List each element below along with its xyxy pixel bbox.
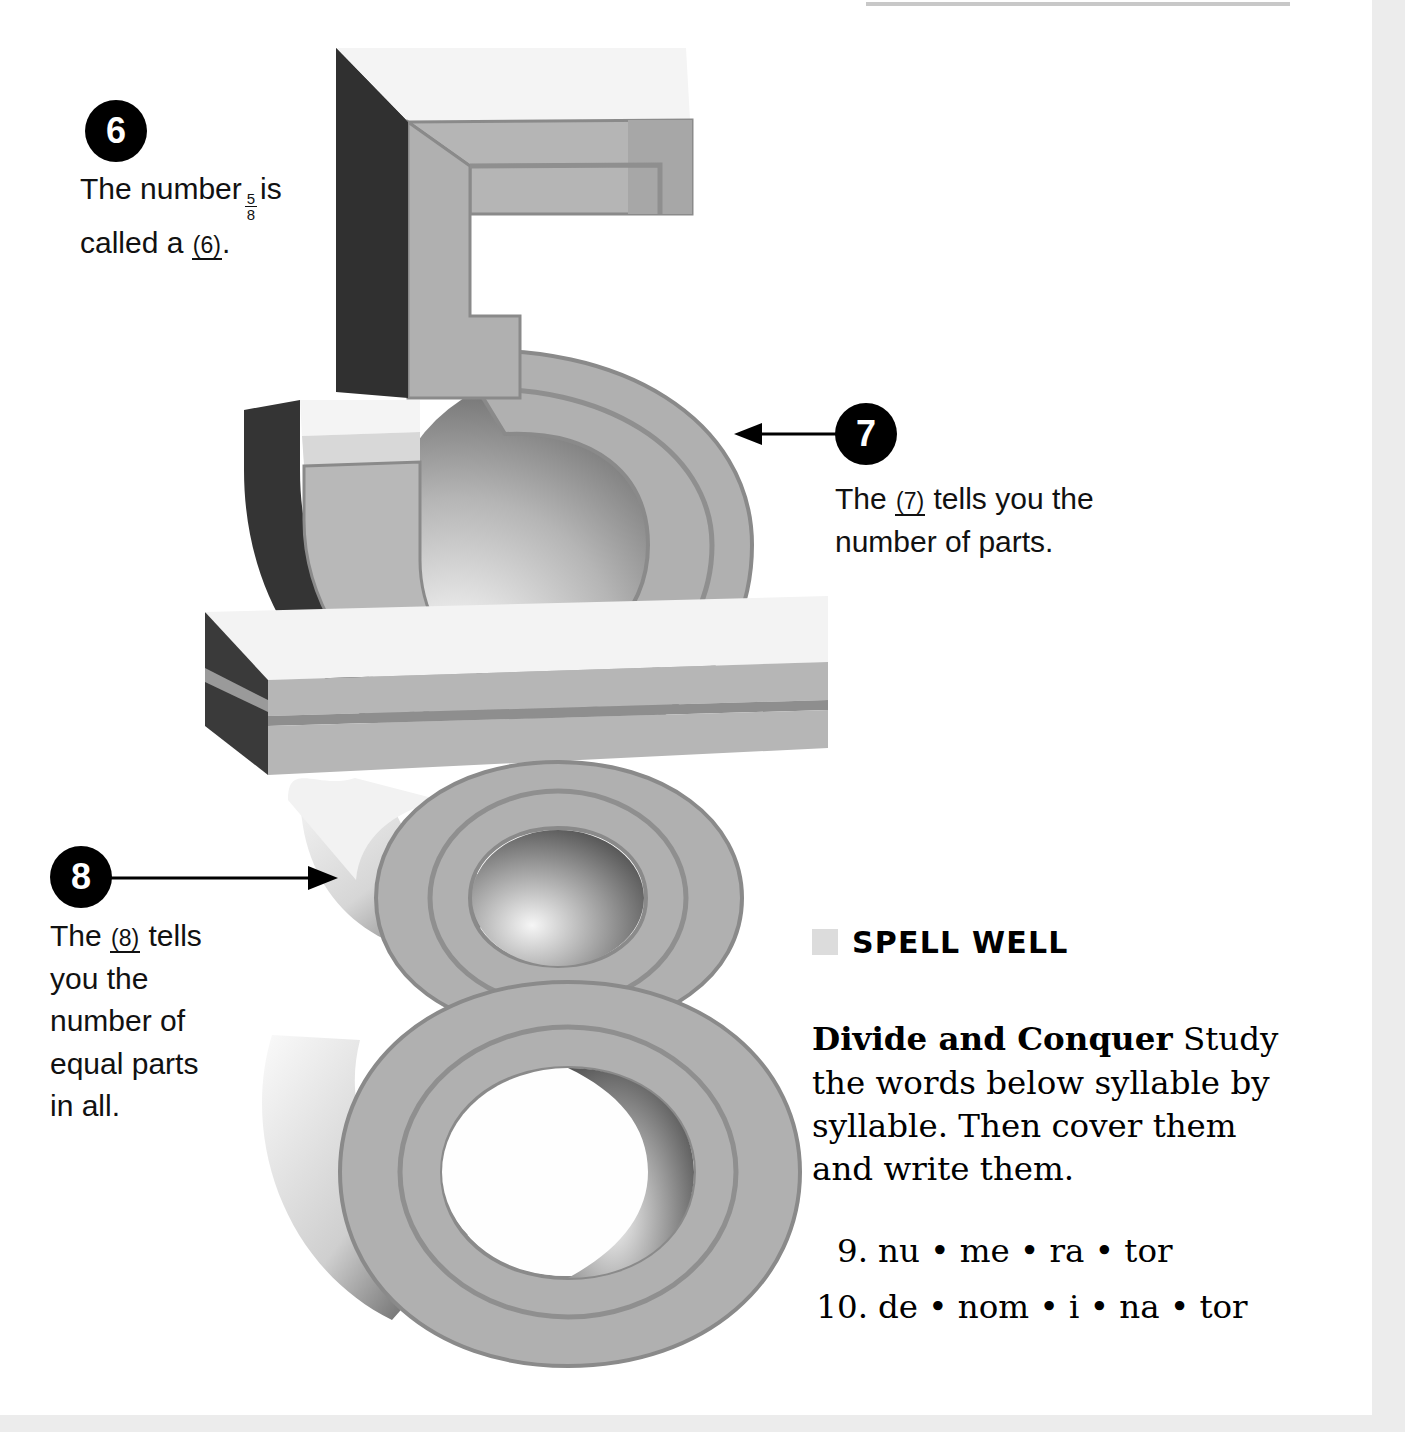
spell-well-word-list: 9. nu • me • ra • tor 10. de • nom • i •… <box>812 1224 1282 1336</box>
inline-fraction-five-eighths: 5 8 <box>245 191 257 223</box>
spell-well-body: Divide and Conquer Study the words below… <box>812 1017 1282 1191</box>
callout-6-period: . <box>222 226 230 259</box>
callout-8-blank: (8) <box>110 925 140 953</box>
fraction-numerator: 5 <box>245 191 257 206</box>
callout-6-text: The number 5 8 is called a (6). <box>80 168 330 265</box>
callout-7-blank: (7) <box>895 488 925 516</box>
callout-6-text-before: The number <box>80 172 242 205</box>
list-item: 10. de • nom • i • na • tor <box>812 1280 1282 1336</box>
spell-well-section: SPELL WELL Divide and Conquer Study the … <box>812 900 1282 1335</box>
numeral-eight-3d <box>262 762 800 1366</box>
word-list-text: de • nom • i • na • tor <box>878 1280 1248 1336</box>
fraction-bar-slab <box>205 596 828 775</box>
page-bottom-edge-band <box>0 1415 1405 1432</box>
eight-upper-hole <box>472 830 644 966</box>
callout-number-8: 8 <box>50 846 112 908</box>
spell-well-body-lead: Divide and Conquer <box>812 1019 1173 1058</box>
callout-7-text: The (7) tells you the number of parts. <box>835 478 1125 563</box>
arrow-pointing-to-denominator <box>108 858 340 898</box>
fraction-denominator: 8 <box>245 206 257 222</box>
page-top-rule <box>866 2 1290 6</box>
arrow-pointing-to-numerator <box>730 414 850 454</box>
page-right-edge-band <box>1372 0 1405 1432</box>
callout-6-blank: (6) <box>192 232 222 260</box>
callout-7-text-start: The <box>835 482 887 515</box>
callout-number-6: 6 <box>85 100 147 162</box>
word-list-number: 10. <box>812 1280 868 1336</box>
word-list-number: 9. <box>812 1224 868 1280</box>
five-tail-top-shade <box>302 432 420 466</box>
five-tail-top-face <box>300 400 420 436</box>
word-list-text: nu • me • ra • tor <box>878 1224 1172 1280</box>
callout-8-text: The (8) tells you the number of equal pa… <box>50 915 230 1128</box>
callout-number-7: 7 <box>835 403 897 465</box>
square-bullet-icon <box>812 929 838 955</box>
spell-well-heading: SPELL WELL <box>852 925 1069 960</box>
list-item: 9. nu • me • ra • tor <box>812 1224 1282 1280</box>
callout-8-text-start: The <box>50 919 102 952</box>
spell-well-heading-row: SPELL WELL <box>812 900 1282 985</box>
